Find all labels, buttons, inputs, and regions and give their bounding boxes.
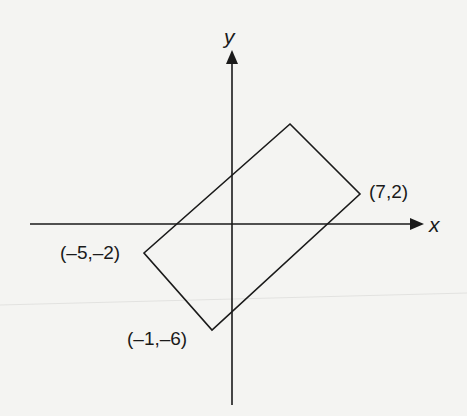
x-axis-label: x xyxy=(429,214,440,235)
x-axis-arrow-icon xyxy=(410,218,424,230)
rectangle-shape xyxy=(144,124,360,330)
vertex-label-7-2: (7,2) xyxy=(369,182,408,201)
coordinate-diagram xyxy=(0,0,467,416)
vertex-label-neg1-neg6: (–1,–6) xyxy=(127,329,187,348)
vertex-label-neg5-neg2: (–5,–2) xyxy=(60,243,120,262)
scan-artifact-line xyxy=(0,293,467,305)
y-axis-arrow-icon xyxy=(226,50,238,64)
y-axis-label: y xyxy=(224,26,235,47)
